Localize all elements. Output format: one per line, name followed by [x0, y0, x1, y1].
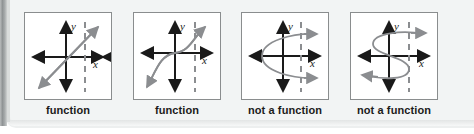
x-axis-label-2: x	[201, 54, 207, 66]
panel-caption-4: not a function	[314, 104, 474, 116]
x-axis-label-1: x	[92, 58, 98, 70]
panel-group: y x function	[0, 0, 474, 134]
graph-canvas-1: y x	[25, 13, 111, 99]
y-axis-label-4: y	[393, 20, 399, 32]
graph-panel-3: y x	[241, 12, 329, 100]
graph-panel-4: y x	[350, 12, 438, 100]
figure-root: y x function	[0, 0, 474, 134]
graph-canvas-4: y x	[351, 13, 437, 99]
y-axis-label-1: y	[70, 20, 76, 32]
x-axis-label-3: x	[309, 57, 315, 69]
graph-panel-1: y x	[24, 12, 112, 100]
y-axis-label-3: y	[287, 20, 293, 32]
graph-panel-2: y x	[133, 12, 221, 100]
graph-canvas-2: y x	[134, 13, 220, 99]
y-axis-label-2: y	[179, 20, 185, 32]
graph-curve-4-arrow-lower	[362, 75, 378, 77]
graph-canvas-3: y x	[242, 13, 328, 99]
x-axis-label-4: x	[418, 57, 424, 69]
